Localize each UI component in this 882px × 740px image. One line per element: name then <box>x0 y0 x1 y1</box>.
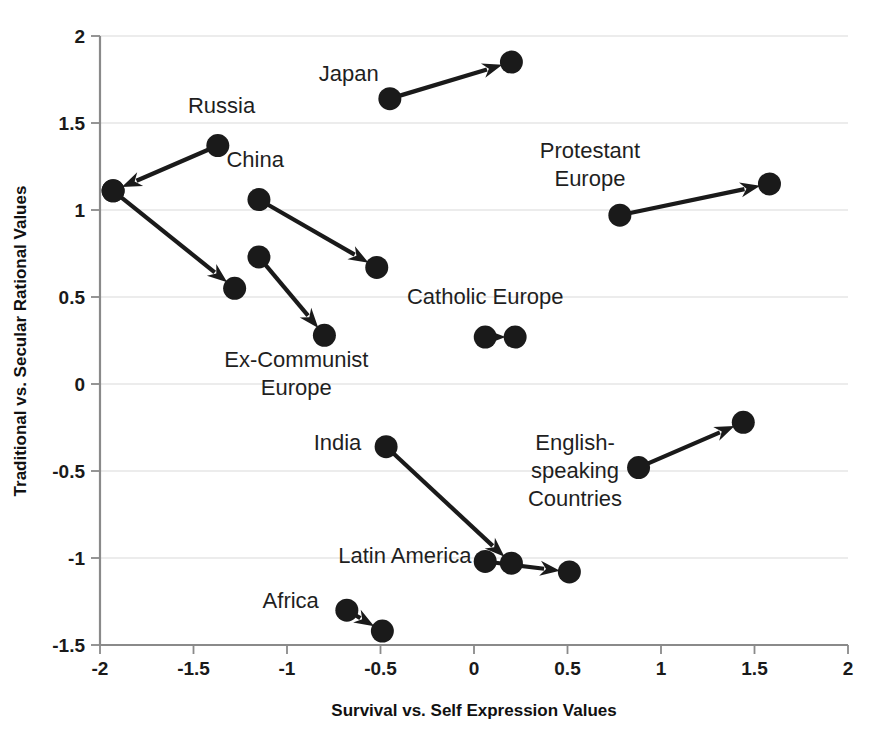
x-tick-label: -2 <box>92 658 109 679</box>
y-axis-title: Traditional vs. Secular Rational Values <box>11 186 30 497</box>
point-label: Japan <box>319 61 379 86</box>
data-point-start <box>247 245 270 268</box>
data-point-end <box>223 277 246 300</box>
x-tick-label: -0.5 <box>364 658 397 679</box>
data-point-end <box>371 620 394 643</box>
point-label: Russia <box>188 93 256 118</box>
x-tick-label: 1.5 <box>741 658 768 679</box>
cultural-map-chart: -2-1.5-1-0.500.511.52 -1.5-1-0.500.511.5… <box>0 0 882 740</box>
x-tick-label: -1 <box>279 658 296 679</box>
chart-background <box>0 0 882 740</box>
scatter-plot-svg: -2-1.5-1-0.500.511.52 -1.5-1-0.500.511.5… <box>0 0 882 740</box>
point-label: English-speakingCountries <box>528 430 622 511</box>
point-label: India <box>314 430 362 455</box>
data-point-end <box>558 560 581 583</box>
data-point-end <box>500 552 523 575</box>
data-point-end <box>500 51 523 74</box>
point-label: China <box>226 147 284 172</box>
point-label: Africa <box>263 588 320 613</box>
data-point-start <box>375 435 398 458</box>
data-point-start <box>608 204 631 227</box>
y-tick-label: 2 <box>74 26 85 47</box>
x-tick-label: 0.5 <box>554 658 581 679</box>
x-tick-label: -1.5 <box>177 658 210 679</box>
data-point-start <box>627 456 650 479</box>
data-point-start <box>474 550 497 573</box>
y-tick-label: 1.5 <box>59 113 86 134</box>
x-tick-label: 1 <box>656 658 667 679</box>
y-tick-label: -0.5 <box>52 461 85 482</box>
y-tick-label: 0.5 <box>59 287 86 308</box>
data-point-end <box>504 326 527 349</box>
point-label: Catholic Europe <box>407 284 564 309</box>
data-point-start <box>378 87 401 110</box>
y-tick-label: -1.5 <box>52 635 85 656</box>
data-point-end <box>758 172 781 195</box>
x-tick-label: 2 <box>843 658 854 679</box>
data-point-start <box>335 599 358 622</box>
data-point-end <box>313 324 336 347</box>
y-tick-label: -1 <box>68 548 85 569</box>
x-tick-label: 0 <box>469 658 480 679</box>
data-point-end <box>365 256 388 279</box>
data-point-start <box>102 179 125 202</box>
y-tick-label: 1 <box>74 200 85 221</box>
data-point-end <box>732 411 755 434</box>
y-tick-label: 0 <box>74 374 85 395</box>
data-point-start <box>474 326 497 349</box>
data-point-start <box>247 188 270 211</box>
point-label: Latin America <box>338 543 472 568</box>
x-axis-title: Survival vs. Self Expression Values <box>331 701 616 720</box>
